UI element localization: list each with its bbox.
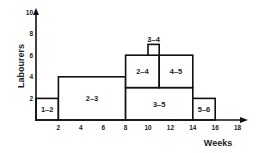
y-tick-label: 10 — [26, 9, 34, 16]
y-axis-title: Labourers — [16, 44, 26, 88]
x-tick-label: 10 — [144, 124, 152, 131]
activity-label: 3–5 — [153, 100, 166, 109]
activity-label: 4–5 — [170, 67, 183, 76]
x-axis-title: Weeks — [204, 138, 232, 148]
activity-bar-3-4 — [148, 44, 159, 55]
x-tick-label: 16 — [212, 124, 220, 131]
x-axis-arrow-icon — [240, 117, 248, 123]
x-tick-label: 14 — [189, 124, 197, 131]
y-axis-arrow-icon — [33, 8, 39, 15]
activity-label: 2–3 — [86, 94, 99, 103]
activity-label: 3–4 — [147, 35, 160, 44]
y-tick-label: 4 — [29, 73, 33, 80]
y-tick-label: 6 — [29, 52, 33, 59]
resource-histogram-chart: 1–22–33–52–44–53–45–6 246810 24681012141… — [0, 0, 261, 153]
x-tick-label: 2 — [57, 124, 61, 131]
x-tick-label: 18 — [234, 124, 242, 131]
x-tick-label: 6 — [101, 124, 105, 131]
y-tick-label: 8 — [29, 30, 33, 37]
x-tick-label: 8 — [124, 124, 128, 131]
activity-label: 5–6 — [198, 105, 211, 114]
x-tick-label: 4 — [79, 124, 83, 131]
activity-label: 2–4 — [136, 67, 149, 76]
y-tick-label: 2 — [29, 95, 33, 102]
activity-label: 1–2 — [41, 105, 54, 114]
x-tick-label: 12 — [167, 124, 175, 131]
